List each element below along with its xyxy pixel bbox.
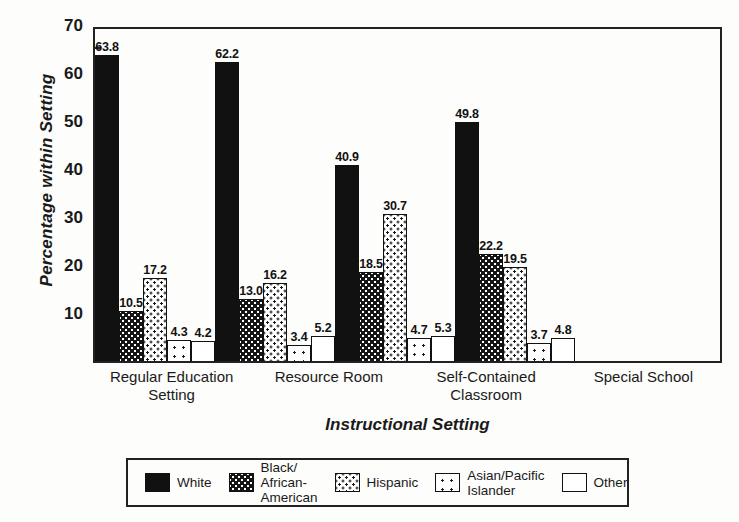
y-tick-label-60: 60: [41, 64, 83, 84]
bar-groups: 63.810.517.24.34.262.213.016.23.45.240.9…: [95, 29, 720, 361]
legend-item-5[interactable]: Other: [562, 473, 628, 492]
legend-label: Black/ African-American: [261, 460, 318, 505]
bar-value-label: 3.7: [531, 328, 548, 342]
bar: 49.8: [455, 122, 479, 361]
bar-value-label: 10.5: [119, 296, 143, 310]
x-tick-label-3: Self-ContainedClassroom: [408, 368, 565, 404]
bar: 16.2: [263, 283, 287, 361]
bar-group-1: 63.810.517.24.34.2: [95, 29, 215, 361]
legend-label: Other: [594, 475, 628, 490]
legend-swatch-sparse: [435, 473, 460, 492]
legend-item-2[interactable]: Black/ African-American: [229, 460, 318, 505]
bar: 40.9: [335, 165, 359, 361]
legend-swatch-empty: [562, 473, 587, 492]
y-tick-label-10: 10: [41, 304, 83, 324]
bar-group-3: 40.918.530.74.75.3: [335, 29, 455, 361]
bar: 3.4: [287, 345, 311, 361]
bar: 19.5: [503, 267, 527, 361]
bar: 4.2: [191, 341, 215, 361]
bar: 22.2: [479, 254, 503, 361]
y-tick-label-70: 70: [41, 16, 83, 36]
bar-value-label: 4.3: [171, 325, 188, 339]
bar-value-label: 13.0: [239, 284, 263, 298]
x-tick-label-4: Special School: [565, 368, 722, 404]
legend-item-1[interactable]: White: [145, 473, 212, 492]
x-axis-title: Instructional Setting: [93, 415, 722, 435]
bar: 30.7: [383, 214, 407, 361]
bar-value-label: 49.8: [455, 107, 479, 121]
chart-legend: WhiteBlack/ African-AmericanHispanicAsia…: [126, 458, 629, 507]
bar: 63.8: [95, 55, 119, 361]
legend-label: Hispanic: [367, 475, 419, 490]
bar-value-label: 5.3: [435, 321, 452, 335]
bar: 17.2: [143, 278, 167, 361]
y-tick-label-30: 30: [41, 208, 83, 228]
bar-value-label: 22.2: [479, 239, 503, 253]
legend-swatch-solid: [145, 473, 170, 492]
legend-swatch-dot: [335, 473, 360, 492]
bar: 5.3: [431, 336, 455, 361]
bar: 10.5: [119, 311, 143, 361]
x-tick-label-1: Regular EducationSetting: [93, 368, 250, 404]
bar-group-2: 62.213.016.23.45.2: [215, 29, 335, 361]
bar-value-label: 19.5: [503, 252, 527, 266]
bar-value-label: 63.8: [95, 40, 119, 54]
bar-value-label: 5.2: [315, 321, 332, 335]
bar-group-4: 49.822.219.53.74.8: [455, 29, 575, 361]
bar-value-label: 4.8: [555, 323, 572, 337]
legend-label: White: [177, 475, 212, 490]
bar-value-label: 4.7: [411, 323, 428, 337]
legend-swatch-check: [229, 473, 254, 492]
bar: 4.8: [551, 338, 575, 361]
legend-item-3[interactable]: Hispanic: [335, 473, 419, 492]
bar: 18.5: [359, 272, 383, 361]
bar: 3.7: [527, 343, 551, 361]
bar: 4.7: [407, 338, 431, 361]
bar: 4.3: [167, 340, 191, 361]
bar-value-label: 40.9: [335, 150, 359, 164]
bar: 13.0: [239, 299, 263, 361]
bar-value-label: 17.2: [143, 263, 167, 277]
bar-value-label: 18.5: [359, 257, 383, 271]
bar-value-label: 16.2: [263, 268, 287, 282]
y-tick-label-50: 50: [41, 112, 83, 132]
bar-value-label: 30.7: [383, 199, 407, 213]
legend-item-4[interactable]: Asian/Pacific Islander: [435, 468, 544, 498]
y-tick-label-20: 20: [41, 256, 83, 276]
bar: 5.2: [311, 336, 335, 361]
bar-value-label: 4.2: [195, 326, 212, 340]
x-axis-tick-labels: Regular EducationSettingResource RoomSel…: [93, 368, 722, 404]
legend-label: Asian/Pacific Islander: [467, 468, 544, 498]
bar: 62.2: [215, 62, 239, 361]
plot-area: 63.810.517.24.34.262.213.016.23.45.240.9…: [93, 27, 722, 363]
y-tick-label-40: 40: [41, 160, 83, 180]
bar-chart-figure: Percentage within Setting 70605040302010…: [0, 0, 739, 522]
bar-value-label: 3.4: [291, 330, 308, 344]
bar-value-label: 62.2: [215, 47, 239, 61]
x-tick-label-2: Resource Room: [250, 368, 407, 404]
